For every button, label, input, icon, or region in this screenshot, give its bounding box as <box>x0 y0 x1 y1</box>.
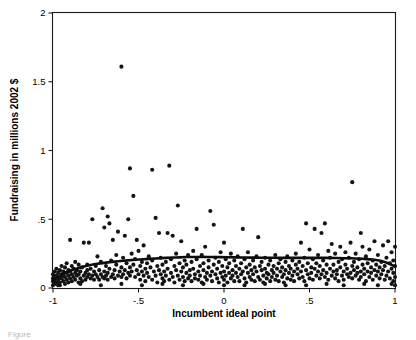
data-point <box>212 263 216 267</box>
data-point <box>201 268 205 272</box>
data-point <box>292 279 296 283</box>
data-point <box>263 282 267 286</box>
data-point <box>390 267 394 271</box>
figure-root: 0.511.52 -1-.50.51 Incumbent ideal point… <box>0 0 416 340</box>
data-point <box>371 278 375 282</box>
data-point <box>258 278 262 282</box>
data-point <box>164 274 168 278</box>
data-point <box>297 260 301 264</box>
data-point <box>321 268 325 272</box>
data-point <box>350 264 354 268</box>
data-point <box>258 264 262 268</box>
data-point <box>367 275 371 279</box>
data-point <box>326 278 330 282</box>
data-point <box>172 280 176 284</box>
figure-caption: Figure <box>8 330 31 339</box>
data-point <box>369 271 373 275</box>
data-point <box>386 239 390 243</box>
data-point <box>87 241 91 245</box>
data-point <box>323 275 327 279</box>
data-point <box>328 267 332 271</box>
data-point <box>304 268 308 272</box>
x-tick-label: .5 <box>306 295 314 306</box>
data-point <box>263 267 267 271</box>
data-point <box>275 274 279 278</box>
data-point <box>147 275 151 279</box>
data-point <box>195 227 199 231</box>
data-point <box>362 272 366 276</box>
data-point <box>275 267 279 271</box>
data-point <box>311 278 315 282</box>
data-point <box>273 253 277 257</box>
data-point <box>174 252 178 256</box>
data-point <box>142 274 146 278</box>
data-point <box>272 271 276 275</box>
data-point <box>242 283 246 287</box>
data-point <box>232 258 236 262</box>
data-point <box>68 238 72 242</box>
data-point <box>234 264 238 268</box>
data-point <box>229 252 233 256</box>
data-point <box>107 221 111 225</box>
data-point <box>342 283 346 287</box>
data-point <box>318 264 322 268</box>
data-point <box>294 263 298 267</box>
data-point <box>224 274 228 278</box>
data-point <box>253 265 257 269</box>
data-point <box>130 252 134 256</box>
data-point <box>266 263 270 267</box>
data-point <box>301 275 305 279</box>
data-point <box>166 231 170 235</box>
data-point <box>388 276 392 280</box>
data-point <box>116 230 120 234</box>
data-point <box>219 250 223 254</box>
data-point <box>128 274 132 278</box>
data-point <box>143 279 147 283</box>
data-point <box>196 278 200 282</box>
data-point <box>179 239 183 243</box>
data-point <box>342 278 346 282</box>
data-point <box>89 267 93 271</box>
data-point <box>282 272 286 276</box>
data-point <box>77 263 81 267</box>
data-point <box>295 272 299 276</box>
data-point <box>261 274 265 278</box>
data-point <box>90 217 94 221</box>
data-point <box>359 269 363 273</box>
data-point <box>176 274 180 278</box>
data-point <box>313 267 317 271</box>
data-point <box>374 263 378 267</box>
data-point <box>294 252 298 256</box>
data-point <box>301 264 305 268</box>
data-point <box>391 271 395 275</box>
data-point <box>383 264 387 268</box>
data-point <box>135 268 139 272</box>
data-point <box>207 265 211 269</box>
data-point <box>393 275 397 279</box>
data-point <box>140 269 144 273</box>
data-point <box>160 282 164 286</box>
data-point <box>222 283 226 287</box>
data-point <box>390 250 394 254</box>
data-point <box>284 283 288 287</box>
data-point <box>119 65 123 69</box>
data-point <box>325 282 329 286</box>
data-point <box>193 272 197 276</box>
data-point <box>104 264 108 268</box>
data-point <box>331 263 335 267</box>
x-tick-label: -.5 <box>133 295 144 306</box>
data-point <box>111 272 115 276</box>
data-point <box>386 269 390 273</box>
data-point <box>374 274 378 278</box>
data-point <box>101 206 105 210</box>
data-point <box>196 269 200 273</box>
data-point <box>106 214 110 218</box>
data-point <box>379 272 383 276</box>
y-tick-label: .5 <box>38 214 46 225</box>
data-point <box>121 272 125 276</box>
data-point <box>164 260 168 264</box>
data-point <box>359 275 363 279</box>
data-point <box>208 209 212 213</box>
data-point <box>295 267 299 271</box>
data-point <box>343 263 347 267</box>
